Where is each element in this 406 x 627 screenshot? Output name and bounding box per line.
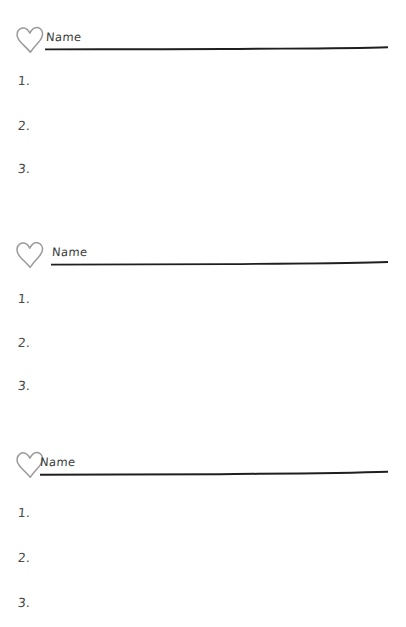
- list-item-number: 1.: [17, 291, 31, 306]
- section-header: Name: [0, 240, 406, 274]
- worksheet-page: Name 1. 2. 3. Name: [0, 0, 406, 627]
- heart-icon: [15, 240, 45, 270]
- list-item-number: 3.: [17, 595, 31, 610]
- list-item[interactable]: 3.: [18, 375, 58, 395]
- list-item-number: 1.: [17, 505, 31, 520]
- list-item-number: 2.: [17, 550, 31, 565]
- list-item[interactable]: 1.: [18, 502, 58, 522]
- list-item[interactable]: 2.: [18, 115, 58, 135]
- section-header: Name: [0, 25, 406, 59]
- list-item-number: 3.: [17, 378, 31, 393]
- list-item-number: 2.: [17, 335, 31, 350]
- name-input-line[interactable]: [45, 41, 388, 53]
- list-item[interactable]: 1.: [18, 70, 58, 90]
- list-item[interactable]: 1.: [18, 288, 58, 308]
- list-item[interactable]: 2.: [18, 332, 58, 352]
- name-input-line[interactable]: [51, 256, 388, 268]
- list-item[interactable]: 3.: [18, 158, 58, 178]
- section-header: Name: [0, 450, 406, 484]
- list-item-number: 3.: [17, 161, 31, 176]
- list-item-number: 2.: [17, 118, 31, 133]
- heart-icon: [15, 25, 45, 55]
- name-input-line[interactable]: [40, 466, 388, 478]
- list-item[interactable]: 2.: [18, 547, 58, 567]
- list-item[interactable]: 3.: [18, 592, 58, 612]
- list-item-number: 1.: [17, 73, 31, 88]
